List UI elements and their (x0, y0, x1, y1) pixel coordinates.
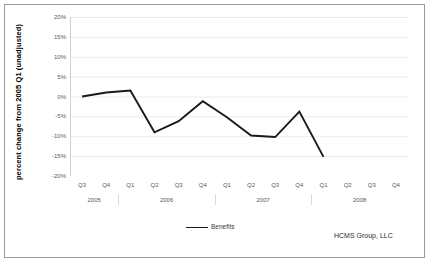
x-tick-label: Q3 (70, 181, 94, 189)
x-tick-label: Q4 (94, 181, 118, 189)
x-tick-label: Q4 (191, 181, 215, 189)
y-tick-label: 10% (40, 54, 66, 60)
legend-label-benefits: Benefits (211, 223, 235, 231)
x-tick-label: Q3 (360, 181, 384, 189)
plot-area (70, 17, 408, 176)
year-label: 2007 (233, 196, 293, 204)
series-line-benefits (82, 91, 323, 157)
x-tick-label: Q1 (312, 181, 336, 189)
x-tick-label: Q3 (263, 181, 287, 189)
y-tick-label: 5% (40, 74, 66, 80)
series-plot (70, 17, 408, 176)
x-tick-label: Q4 (384, 181, 408, 189)
chart-container: percent change from 2005 Q1 (unadjusted)… (0, 0, 429, 262)
year-label: 2006 (137, 196, 197, 204)
y-tick-label: -20% (40, 173, 66, 179)
y-tick-label: 0% (40, 94, 66, 100)
legend: Benefits (186, 223, 235, 231)
x-tick-label: Q4 (287, 181, 311, 189)
year-separator (118, 194, 119, 205)
y-tick-label: -5% (40, 113, 66, 119)
x-axis-tick-labels: Q3Q4Q1Q2Q3Q4Q1Q2Q3Q4Q1Q2Q3Q4 (70, 181, 408, 193)
attribution-text: HCMS Group, LLC (334, 231, 393, 240)
year-label: 2008 (330, 196, 390, 204)
x-tick-label: Q2 (239, 181, 263, 189)
y-tick-label: 20% (40, 14, 66, 20)
x-tick-label: Q3 (167, 181, 191, 189)
year-separator (311, 194, 312, 205)
x-tick-label: Q1 (215, 181, 239, 189)
y-tick-label: -10% (40, 133, 66, 139)
y-tick-label: -15% (40, 153, 66, 159)
y-tick-label: 15% (40, 34, 66, 40)
x-axis-year-labels: 2005200620072008 (70, 196, 408, 208)
x-tick-label: Q1 (118, 181, 142, 189)
x-tick-label: Q2 (336, 181, 360, 189)
x-tick-label: Q2 (143, 181, 167, 189)
legend-line-swatch (186, 227, 208, 228)
y-axis-title: percent change from 2005 Q1 (unadjusted) (14, 2, 28, 202)
year-separator (215, 194, 216, 205)
year-label: 2005 (64, 196, 124, 204)
y-axis-tick-labels: 20%15%10%5%0%-5%-10%-15%-20% (38, 17, 66, 176)
